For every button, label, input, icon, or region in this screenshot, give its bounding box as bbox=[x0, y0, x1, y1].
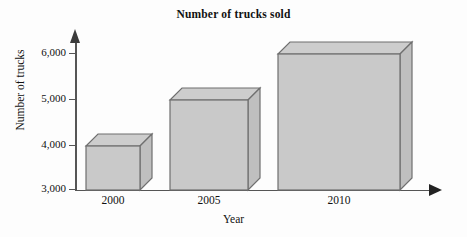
x-tick-label-2000: 2000 bbox=[83, 194, 143, 206]
bar-2010-front-face bbox=[278, 54, 400, 190]
bar-2010-side-face bbox=[400, 42, 412, 190]
chart-figure: Number of trucks sold 6,000 5,000 4,000 … bbox=[0, 0, 467, 237]
x-tick-label-2005: 2005 bbox=[179, 194, 239, 206]
x-tick-label-2010: 2010 bbox=[309, 194, 369, 206]
plot-area: 6,000 5,000 4,000 3,000 Number of trucks bbox=[0, 0, 467, 237]
bar-2010-top-face bbox=[278, 42, 412, 54]
x-axis-title: Year bbox=[0, 213, 467, 225]
